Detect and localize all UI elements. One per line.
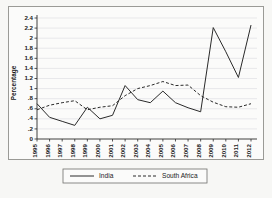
y-tick-label: 1.6 (24, 54, 33, 61)
y-tick-labels: 0.2.4.6.811.21.41.61.822.22.4 (24, 14, 33, 142)
chart-figure: 0.2.4.6.811.21.41.61.822.22.4 1995199619… (0, 0, 272, 198)
gridlines (37, 18, 257, 129)
x-tick-label: 2003 (132, 143, 139, 157)
y-tick-label: .4 (28, 114, 34, 121)
data-series (37, 25, 251, 125)
x-tick-label: 2000 (94, 143, 101, 157)
y-tick-label: 2 (30, 34, 34, 41)
y-axis-title: Percentage (10, 65, 18, 100)
x-tick-label: 2008 (195, 143, 202, 157)
x-tick-label: 1998 (69, 143, 76, 157)
y-tick-label: 1.2 (24, 74, 33, 81)
y-tick-label: 1.8 (24, 44, 33, 51)
x-tick-label: 2009 (207, 143, 214, 157)
y-tick-label: 2.4 (24, 14, 33, 21)
series-line-india (37, 25, 251, 125)
y-tick-label: 1 (30, 84, 34, 91)
line-chart: 0.2.4.6.811.21.41.61.822.22.4 1995199619… (0, 0, 272, 198)
x-tick-label: 1997 (56, 143, 63, 157)
y-tick-label: 0 (30, 135, 34, 142)
x-tick-label: 2012 (245, 143, 252, 157)
legend-label-south-africa: South Africa (162, 172, 198, 179)
y-tick-label: 1.4 (24, 64, 33, 71)
x-tick-label: 2006 (169, 143, 176, 157)
y-tick-label: 2.2 (24, 24, 33, 31)
x-tick-labels: 1995199619971998199920002001200220032004… (31, 143, 252, 157)
x-tick-label: 2001 (107, 143, 114, 157)
x-tick-label: 2005 (157, 143, 164, 157)
x-tick-label: 2007 (182, 143, 189, 157)
legend-label-india: India (99, 172, 114, 179)
y-tick-label: .2 (28, 125, 34, 132)
x-tick-label: 1996 (44, 143, 51, 157)
chart-legend: IndiaSouth Africa (63, 169, 207, 183)
x-tick-label: 2002 (119, 143, 126, 157)
y-tick-label: .8 (28, 94, 34, 101)
x-tick-label: 2010 (220, 143, 227, 157)
x-tick-label: 2011 (232, 143, 239, 157)
y-tick-label: .6 (28, 104, 34, 111)
series-line-south-africa (37, 82, 251, 110)
x-tick-label: 1999 (81, 143, 88, 157)
x-tick-label: 1995 (31, 143, 38, 157)
x-tick-label: 2004 (144, 143, 151, 157)
